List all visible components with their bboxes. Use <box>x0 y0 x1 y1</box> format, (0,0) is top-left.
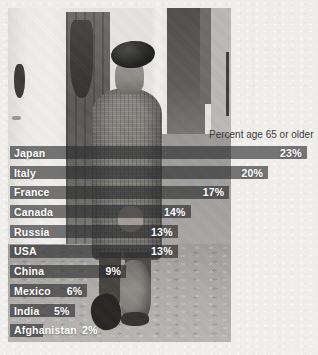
bar-text: France17% <box>10 186 229 199</box>
value-label: 14% <box>164 206 186 218</box>
bar-text: Italy20% <box>10 166 268 179</box>
value-label: 20% <box>241 167 263 179</box>
country-label: USA <box>14 245 37 257</box>
country-label: Japan <box>14 147 45 159</box>
value-label: 17% <box>203 186 225 198</box>
bar-text: Mexico6% <box>10 284 87 297</box>
bar-text: USA13% <box>10 245 178 258</box>
country-label: Italy <box>14 167 36 179</box>
bar-text: India5% <box>10 304 75 317</box>
value-label: 5% <box>54 305 70 317</box>
bar-text: Japan23% <box>10 146 307 159</box>
value-label: 13% <box>151 226 173 238</box>
country-label: Afghanistan <box>14 324 77 336</box>
value-label: 23% <box>280 147 302 159</box>
country-label: India <box>14 305 40 317</box>
bar-text: China9% <box>10 265 126 278</box>
value-label: 13% <box>151 245 173 257</box>
page: Percent age 65 or older Japan23%Italy20%… <box>0 0 318 355</box>
country-label: China <box>14 265 44 277</box>
value-label: 9% <box>106 265 122 277</box>
country-label: Mexico <box>14 285 51 297</box>
bar-text: Russia13% <box>10 225 178 238</box>
country-label: France <box>14 186 50 198</box>
bar-text: Afghanistan2% <box>10 324 43 337</box>
country-label: Canada <box>14 206 53 218</box>
bar-text: Canada14% <box>10 205 191 218</box>
value-label: 6% <box>67 285 83 297</box>
chart-title: Percent age 65 or older <box>209 129 314 140</box>
value-label: 2% <box>82 324 98 336</box>
country-label: Russia <box>14 226 50 238</box>
